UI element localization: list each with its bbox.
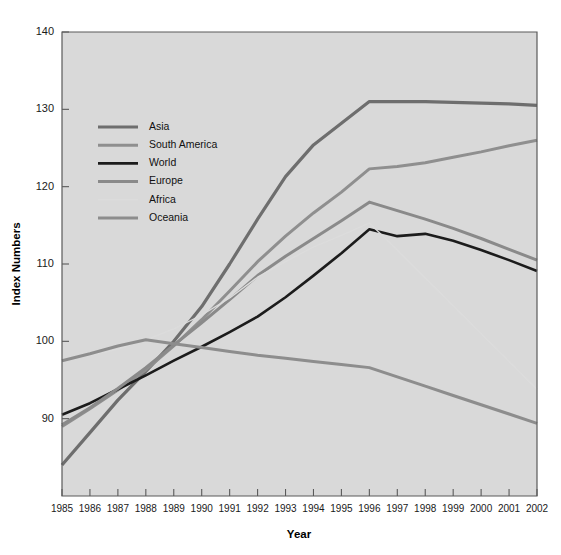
legend-label: South America xyxy=(149,138,217,150)
legend-label: Africa xyxy=(149,193,176,205)
x-tick-label: 1991 xyxy=(219,503,242,514)
x-tick-label: 1995 xyxy=(330,503,353,514)
x-tick-label: 1999 xyxy=(442,503,465,514)
y-tick-label: 110 xyxy=(36,257,54,269)
y-tick-label: 140 xyxy=(36,25,54,37)
x-tick-label: 1990 xyxy=(191,503,214,514)
y-tick-label: 100 xyxy=(36,334,54,346)
legend-label: Asia xyxy=(149,120,170,132)
y-axis-title: Index Numbers xyxy=(10,222,22,305)
x-tick-label: 2002 xyxy=(526,503,549,514)
x-tick-label: 1996 xyxy=(358,503,381,514)
x-tick-label: 1987 xyxy=(107,503,130,514)
x-tick-label: 2001 xyxy=(498,503,521,514)
x-tick-label: 1986 xyxy=(79,503,102,514)
x-axis-title: Year xyxy=(287,528,312,540)
legend-label: Europe xyxy=(149,174,183,186)
line-chart: 90100110120130140 1985198619871988198919… xyxy=(0,0,561,555)
x-tick-label: 1997 xyxy=(386,503,409,514)
y-tick-label: 90 xyxy=(42,412,54,424)
x-tick-label: 1998 xyxy=(414,503,437,514)
x-tick-label: 1988 xyxy=(135,503,158,514)
x-tick-label: 1989 xyxy=(163,503,186,514)
x-tick-label: 1994 xyxy=(302,503,325,514)
x-tick-label: 2000 xyxy=(470,503,493,514)
y-tick-label: 130 xyxy=(36,102,54,114)
legend-label: Oceania xyxy=(149,211,188,223)
legend-label: World xyxy=(149,156,176,168)
y-tick-label: 120 xyxy=(36,180,54,192)
x-tick-label: 1992 xyxy=(246,503,269,514)
x-tick-label: 1985 xyxy=(51,503,74,514)
x-tick-label: 1993 xyxy=(274,503,297,514)
chart-svg: 90100110120130140 1985198619871988198919… xyxy=(0,0,561,555)
